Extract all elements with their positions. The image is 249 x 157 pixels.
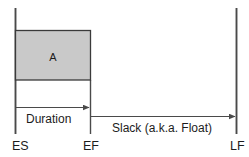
task-box-label: A: [49, 51, 57, 63]
schedule-float-diagram: A Duration Slack (a.k.a. Float) ES EF LF: [0, 0, 249, 157]
milestone-label-lf: LF: [230, 139, 245, 153]
diagram-canvas: A Duration Slack (a.k.a. Float) ES EF LF: [0, 0, 249, 157]
milestone-label-es: ES: [12, 139, 29, 153]
slack-label: Slack (a.k.a. Float): [112, 121, 212, 135]
milestone-label-ef: EF: [83, 139, 99, 153]
duration-label: Duration: [26, 112, 71, 126]
